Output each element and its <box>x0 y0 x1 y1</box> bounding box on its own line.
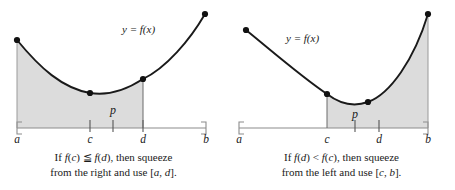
shaded-region-a-d <box>17 40 143 128</box>
right-panel-plot <box>228 0 455 148</box>
axis-label-a: a <box>230 134 248 146</box>
axis-label-a: a <box>8 134 26 146</box>
squeeze-search-figure: y = f(x) p a c d b If f(c) ≦ f(d), then … <box>0 0 455 190</box>
axis-label-d: d <box>370 134 388 146</box>
axis-label-d: d <box>134 134 152 146</box>
panel-left-caption: If f(c) ≦ f(d), then squeeze from the ri… <box>0 150 227 180</box>
point-b <box>202 11 208 17</box>
left-panel-plot <box>0 0 227 148</box>
point-c <box>324 91 330 97</box>
curve-label: y = f(x) <box>286 33 319 44</box>
point-d <box>365 99 371 105</box>
interior-point-label: p <box>106 104 120 116</box>
shaded-region-c-b <box>327 14 428 128</box>
panel-right: y = f(x) p a c d b If f(d) < f(c), then … <box>228 0 455 190</box>
point-d <box>140 76 146 82</box>
point-a <box>243 27 249 33</box>
panel-left: y = f(x) p a c d b If f(c) ≦ f(d), then … <box>0 0 227 190</box>
interior-point-label: p <box>348 108 362 120</box>
caption-line-1: If f(c) ≦ f(d), then squeeze <box>0 150 227 165</box>
point-b <box>425 11 431 17</box>
caption-line-2: from the left and use [c, b]. <box>228 165 455 180</box>
curve-label: y = f(x) <box>122 24 155 35</box>
axis-label-b: b <box>419 134 437 146</box>
caption-line-1: If f(d) < f(c), then squeeze <box>228 150 455 165</box>
axis-label-c: c <box>81 134 99 146</box>
point-a <box>14 37 20 43</box>
panel-right-caption: If f(d) < f(c), then squeeze from the le… <box>228 150 455 180</box>
point-c <box>87 90 93 96</box>
caption-line-2: from the right and use [a, d]. <box>0 165 227 180</box>
axis-label-b: b <box>197 134 215 146</box>
axis-label-c: c <box>318 134 336 146</box>
